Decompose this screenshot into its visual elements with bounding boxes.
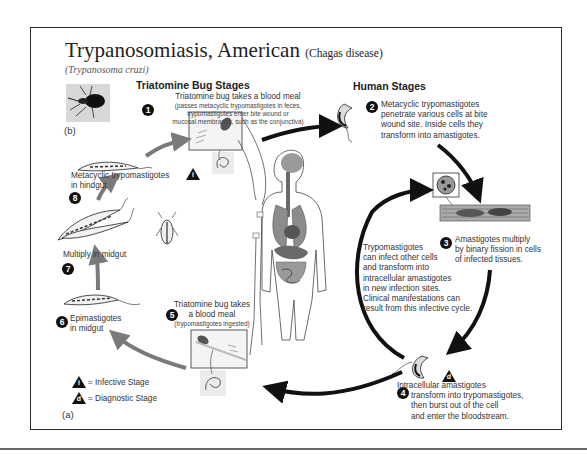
arrow-5-to-6 [115, 335, 186, 368]
stage-8-marker: 8 [69, 192, 81, 204]
stage-6-marker: 6 [56, 316, 68, 328]
bug-stages-header: Triatomine Bug Stages [136, 79, 250, 91]
arrow-4-to-5 [270, 372, 402, 394]
stage-1-detail-line: (passes metacyclic trypomastigotes in fe… [148, 102, 328, 110]
stage-4-line: Intracellular amastigotes [396, 381, 523, 391]
stage-4-line: transform into trypomastigotes, [396, 391, 523, 401]
panel-label-b: (b) [64, 125, 76, 136]
stage-2-line: penetrate various cells at bite [381, 110, 488, 120]
stage-1-label: Triatomine bug takes a blood meal (passe… [148, 92, 328, 126]
triatomine-bug-drawing [156, 212, 178, 244]
stage-2-line: wound site. Inside cells they [381, 120, 488, 130]
inner-cycle-line: can infect other cells [363, 253, 472, 263]
stage-5-detail: (trypomastigotes ingested) [168, 320, 256, 328]
legend-diagnostic-icon: d [72, 392, 86, 404]
human-figure [262, 150, 326, 340]
legend-infective-label: = Infective Stage [88, 378, 149, 388]
stage-2-line: transform into amastigotes. [381, 131, 488, 141]
inner-cycle-line: intracellular amastigotes [363, 274, 472, 284]
stage-4-line: then burst out of the cell [396, 401, 523, 411]
human-stages-header: Human Stages [353, 80, 426, 92]
stage-2-line: Metacyclic trypomastigotes [381, 100, 488, 110]
stage-8-line: Metacyclic trypomastigotes [71, 171, 169, 181]
arrow-1-to-2 [262, 126, 335, 140]
stage-8-line: in hindgut [71, 181, 169, 191]
stage-4-line: and enter the bloodstream. [396, 412, 523, 422]
stage5-bite-inset [191, 330, 247, 396]
panel-label-a: (a) [62, 409, 74, 420]
title-main: Trypanosomiasis, American [65, 38, 300, 62]
amastigote-tissue [433, 173, 530, 221]
trypomastigote-stage2 [338, 104, 352, 142]
epimastigote-6 [64, 295, 140, 305]
stage-4-label: Intracellular amastigotes transform into… [396, 381, 523, 422]
legend-infective-icon: i [72, 376, 86, 388]
infective-stage-icon: i [186, 168, 200, 180]
stage-1-title: Triatomine bug takes a blood meal [148, 92, 328, 102]
inner-cycle-line: Clinical manifestations can [363, 294, 472, 304]
stage-2-marker: 2 [366, 101, 378, 113]
stage-8-label: Metacyclic trypomastigotes in hindgut [71, 171, 169, 191]
stage-5-label: Triatomine bug takes a blood meal (trypo… [168, 300, 256, 328]
triatomine-bug-photo [66, 84, 110, 122]
epimastigote-multiply-7 [58, 198, 134, 240]
inner-cycle-line: and transform into [363, 263, 472, 273]
diagram-title: Trypanosomiasis, American (Chagas diseas… [65, 38, 383, 63]
metacyclic-trypomastigote-8 [78, 162, 152, 171]
stage-6-line: Epimastigotes [70, 314, 121, 324]
diagram-subtitle: (Trypanosoma cruzi) [65, 64, 149, 75]
inner-cycle-line: in new infection sites. [363, 284, 472, 294]
stage-1-detail-line: trypomastigotes enter bite wound or [148, 110, 328, 118]
stage-7-marker: 7 [62, 263, 74, 275]
title-parenthetical: (Chagas disease) [305, 47, 383, 59]
inner-cycle-line: result from this infective cycle. [363, 304, 472, 314]
stage-6-line: in midgut [70, 324, 121, 334]
stage-7-label: Multiply in midgut [63, 250, 126, 260]
stage-1-detail-line: mucosal membranes, such as the conjuncti… [148, 118, 328, 126]
stage-6-label: Epimastigotes in midgut [70, 314, 121, 334]
legend-diagnostic-label: = Diagnostic Stage [88, 394, 157, 404]
arrow-8-to-1 [146, 140, 184, 156]
stage-5-line: Triatomine bug takes [168, 300, 256, 310]
inner-cycle-note: Trypomastigotes can infect other cells a… [363, 243, 472, 314]
inner-cycle-line: Trypomastigotes [363, 243, 472, 253]
stage-2-label: Metacyclic trypomastigotes penetrate var… [381, 100, 488, 141]
stage-5-line: a blood meal [168, 310, 256, 320]
